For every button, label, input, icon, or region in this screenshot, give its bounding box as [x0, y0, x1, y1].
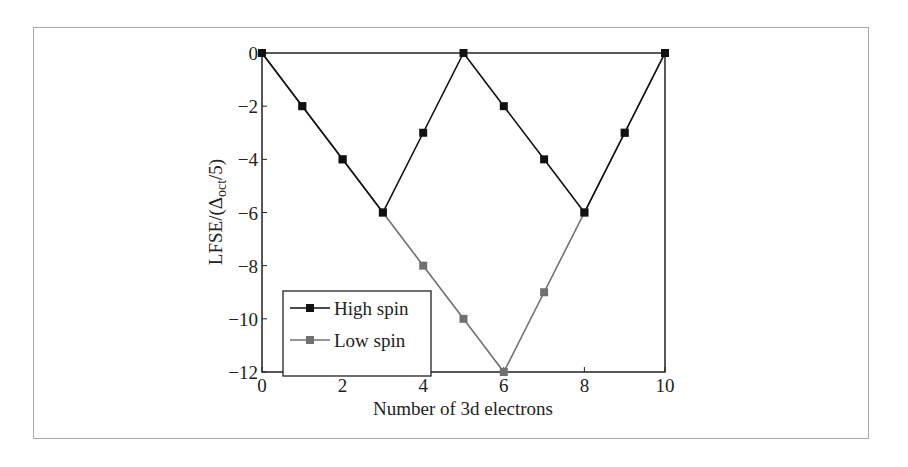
- y-axis-title: LFSE/(Δoct/5): [205, 159, 229, 265]
- y-tick-label: −6: [238, 203, 258, 224]
- data-point-marker: [580, 209, 588, 217]
- data-point-marker: [540, 288, 548, 296]
- y-tick-label: −12: [228, 362, 258, 383]
- data-point-marker: [460, 49, 468, 57]
- x-tick-label: 8: [580, 375, 590, 396]
- x-tick-label: 10: [656, 375, 675, 396]
- data-point-marker: [540, 155, 548, 163]
- data-point-marker: [339, 155, 347, 163]
- x-axis-title: Number of 3d electrons: [373, 398, 553, 419]
- data-point-marker: [661, 49, 669, 57]
- low-spin-marker-icon: [306, 336, 314, 344]
- y-tick-label: 0: [249, 43, 259, 64]
- data-point-marker: [500, 102, 508, 110]
- y-tick-label: −2: [238, 96, 258, 117]
- x-tick-label: 2: [338, 375, 348, 396]
- y-tick-label: −4: [238, 149, 259, 170]
- data-point-marker: [419, 129, 427, 137]
- series-high-spin: [258, 49, 669, 217]
- svg-text:High spin: High spin: [334, 298, 409, 319]
- data-point-marker: [621, 129, 629, 137]
- y-tick-label: −8: [238, 256, 258, 277]
- data-point-marker: [419, 262, 427, 270]
- x-tick-label: 6: [499, 375, 509, 396]
- high-spin-marker-icon: [306, 304, 314, 312]
- x-tick-label: 0: [257, 375, 267, 396]
- data-point-marker: [258, 49, 266, 57]
- x-tick-label: 4: [418, 375, 428, 396]
- data-point-marker: [379, 209, 387, 217]
- chart-canvas: 02468100−2−4−6−8−10−12 Number of 3d elec…: [0, 0, 908, 467]
- data-point-marker: [298, 102, 306, 110]
- data-point-marker: [460, 315, 468, 323]
- y-tick-label: −10: [228, 309, 258, 330]
- svg-text:Low spin: Low spin: [334, 330, 406, 351]
- chart-legend: High spin Low spin: [283, 291, 431, 376]
